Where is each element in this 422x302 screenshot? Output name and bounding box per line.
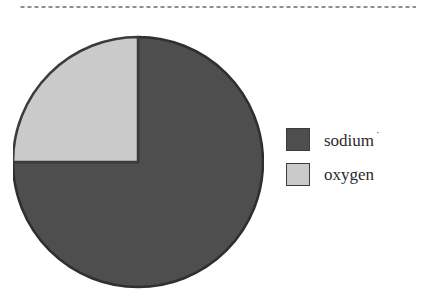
pie-chart-svg: [13, 33, 264, 291]
legend-label-sodium: sodium˙: [324, 130, 380, 149]
dotted-divider: [19, 4, 416, 8]
legend-label-sodium-text: sodium: [324, 130, 374, 149]
pie-chart: [13, 33, 264, 291]
legend-label-sodium-mark: ˙: [376, 129, 380, 141]
legend-label-oxygen: oxygen: [324, 166, 374, 183]
legend-item-sodium[interactable]: sodium˙: [286, 126, 418, 152]
legend-item-oxygen[interactable]: oxygen: [286, 161, 418, 187]
chart-legend: sodium˙ oxygen: [286, 126, 418, 196]
legend-swatch-sodium: [286, 128, 310, 151]
legend-label-oxygen-text: oxygen: [324, 165, 374, 184]
pie-slice-oxygen[interactable]: [13, 37, 138, 162]
legend-swatch-oxygen: [286, 163, 310, 186]
pie-chart-figure: sodium˙ oxygen: [0, 0, 422, 302]
